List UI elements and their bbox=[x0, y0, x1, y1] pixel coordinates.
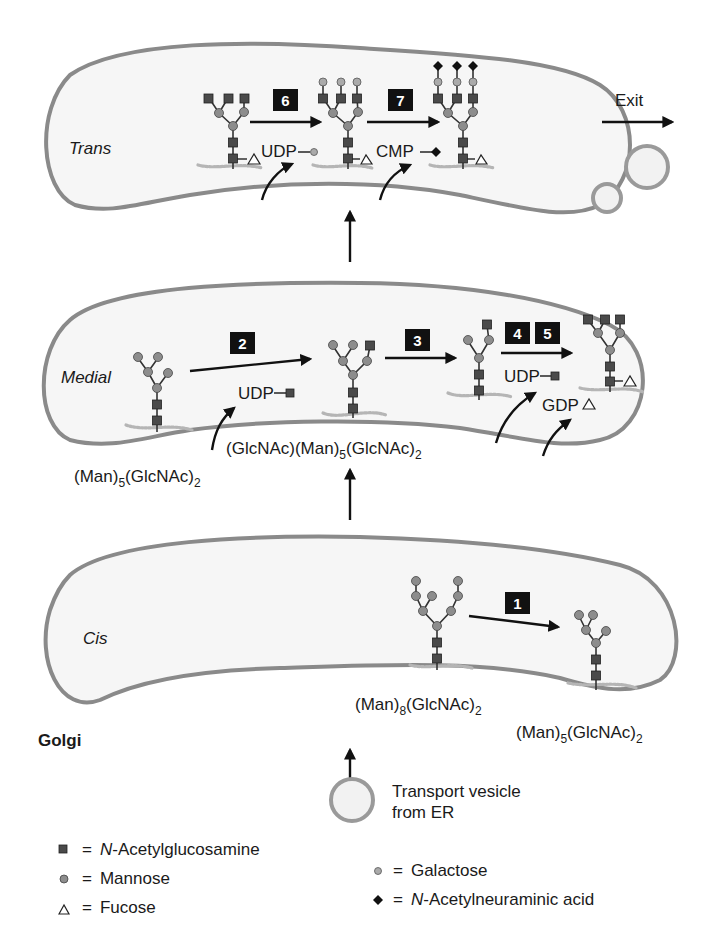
svg-text:7: 7 bbox=[396, 92, 404, 109]
svg-text:=Fucose: =Fucose bbox=[82, 898, 156, 917]
svg-text:4: 4 bbox=[513, 325, 522, 342]
legend-item-glcnac: =N-Acetylglucosamine bbox=[59, 840, 260, 859]
glcnac-man5-formula: (GlcNAc)(Man)5(GlcNAc)2 bbox=[226, 439, 422, 462]
svg-text:5: 5 bbox=[543, 325, 551, 342]
svg-text:3: 3 bbox=[413, 332, 421, 349]
secretory-vesicle-small bbox=[593, 184, 621, 212]
mannose-legend-icon bbox=[60, 875, 68, 883]
legend-item-fucose: =Fucose bbox=[59, 898, 156, 917]
vesicle-label-line1: Transport vesicle bbox=[392, 782, 521, 801]
cmp-neu-donor: CMP bbox=[376, 142, 414, 161]
cis-label: Cis bbox=[83, 629, 108, 648]
secretory-vesicle-large bbox=[626, 146, 668, 188]
legend-item-neuraminic-acid: =N-Acetylneuraminic acid bbox=[373, 890, 594, 909]
udp-gal-donor: UDP bbox=[261, 142, 297, 161]
exit-label: Exit bbox=[615, 91, 644, 110]
svg-text:(Man)5(GlcNAc)2: (Man)5(GlcNAc)2 bbox=[74, 467, 201, 490]
udp-glcnac-donor-2: UDP bbox=[238, 384, 274, 403]
glcnac-icon bbox=[286, 389, 294, 397]
glcnac-legend-icon bbox=[59, 845, 67, 853]
svg-text:(GlcNAc)(Man)5(GlcNAc)2: (GlcNAc)(Man)5(GlcNAc)2 bbox=[226, 439, 422, 462]
svg-text:2: 2 bbox=[238, 335, 246, 352]
cis-cisterna: Cis 1 bbox=[46, 537, 677, 746]
step-1-badge: 1 bbox=[505, 592, 530, 614]
glcnac-icon bbox=[551, 372, 559, 380]
golgi-label: Golgi bbox=[38, 731, 81, 750]
legend-item-mannose: =Mannose bbox=[60, 869, 170, 888]
man8-formula: (Man)8(GlcNAc)2 bbox=[355, 695, 482, 718]
svg-text:(Man)8(GlcNAc)2: (Man)8(GlcNAc)2 bbox=[355, 695, 482, 718]
step-6-badge: 6 bbox=[273, 89, 298, 111]
er-transport-vesicle bbox=[331, 779, 373, 821]
trans-cisterna: Trans 6 UDP bbox=[46, 44, 672, 213]
neuraminic-acid-legend-icon bbox=[373, 895, 383, 905]
udp-glcnac-donor-45: UDP bbox=[504, 367, 540, 386]
step-2-badge: 2 bbox=[230, 332, 255, 354]
fucose-legend-icon bbox=[59, 905, 69, 914]
svg-text:1: 1 bbox=[513, 595, 521, 612]
svg-text:=N-Acetylglucosamine: =N-Acetylglucosamine bbox=[82, 840, 260, 859]
legend-item-galactose: =Galactose bbox=[375, 861, 488, 880]
step-4-badge: 4 bbox=[505, 322, 530, 344]
svg-text:=Galactose: =Galactose bbox=[393, 861, 487, 880]
step-7-badge: 7 bbox=[388, 89, 413, 111]
gdp-fuc-donor: GDP bbox=[542, 396, 579, 415]
svg-text:(Man)5(GlcNAc)2: (Man)5(GlcNAc)2 bbox=[516, 723, 643, 746]
svg-text:=Mannose: =Mannose bbox=[82, 869, 170, 888]
medial-label: Medial bbox=[61, 368, 112, 387]
man5-medial-formula: (Man)5(GlcNAc)2 bbox=[74, 467, 201, 490]
step-5-badge: 5 bbox=[535, 322, 560, 344]
svg-text:=N-Acetylneuraminic acid: =N-Acetylneuraminic acid bbox=[393, 890, 594, 909]
legend: =N-Acetylglucosamine =Mannose =Fucose =G… bbox=[59, 840, 594, 917]
trans-label: Trans bbox=[69, 139, 112, 158]
man5-cis-formula: (Man)5(GlcNAc)2 bbox=[516, 723, 643, 746]
medial-cisterna: Medial 2 UDP bbox=[44, 283, 643, 490]
golgi-glycosylation-diagram: Trans 6 UDP bbox=[0, 0, 710, 946]
svg-text:6: 6 bbox=[281, 92, 289, 109]
step-3-badge: 3 bbox=[405, 329, 430, 351]
galactose-legend-icon bbox=[375, 868, 382, 875]
vesicle-label-line2: from ER bbox=[392, 803, 454, 822]
galactose-icon bbox=[311, 149, 318, 156]
